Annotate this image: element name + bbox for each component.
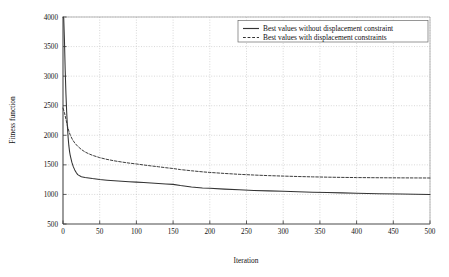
x-tick-label: 200 <box>204 228 215 236</box>
x-tick-label: 450 <box>388 228 399 236</box>
y-tick-label: 1500 <box>44 161 59 169</box>
y-tick-label: 1000 <box>44 191 59 199</box>
legend-items: Best values without displacement constra… <box>243 24 394 42</box>
x-tick-label: 250 <box>241 228 252 236</box>
y-tick-label: 500 <box>47 221 58 229</box>
x-axis-title: Iteration <box>233 256 258 265</box>
x-tick-label: 150 <box>168 228 179 236</box>
y-tick-label: 4000 <box>44 14 59 22</box>
chart-legend: Best values without displacement constra… <box>238 21 428 43</box>
x-tick-label: 50 <box>96 228 104 236</box>
x-tick-label: 400 <box>351 228 362 236</box>
legend-entry-label: Best values with displacement constraint… <box>263 33 387 42</box>
legend-entry-label: Best values without displacement constra… <box>263 24 394 33</box>
y-tick-label: 3500 <box>44 43 59 51</box>
y-tick-label: 3000 <box>44 73 59 81</box>
y-tick-label: 2500 <box>44 102 59 110</box>
x-tick-label: 500 <box>425 228 436 236</box>
y-tick-label: 2000 <box>44 132 59 140</box>
y-axis-title: Fitness function <box>8 96 17 144</box>
x-tick-label: 100 <box>131 228 142 236</box>
figure-container: 050100150200250300350400450500 500100015… <box>0 0 449 277</box>
fitness-convergence-chart: 050100150200250300350400450500 500100015… <box>0 0 449 277</box>
x-tick-label: 300 <box>278 228 289 236</box>
x-tick-label: 0 <box>61 228 65 236</box>
x-tick-label: 350 <box>315 228 326 236</box>
